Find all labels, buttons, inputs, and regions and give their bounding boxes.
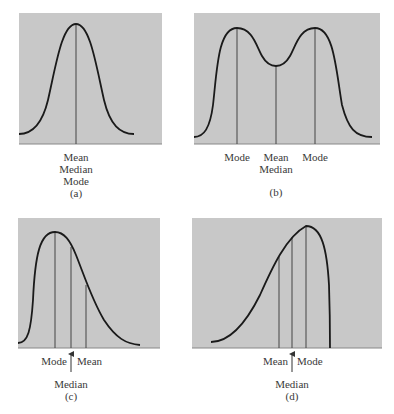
panel-b-caption: (b) bbox=[270, 186, 283, 198]
panel-a-label-mean: Mean bbox=[63, 151, 88, 163]
panel-c-label-mean: Mean bbox=[77, 355, 102, 367]
panel-d-label-median: Median bbox=[275, 378, 309, 390]
panel-b-label-right-mode: Mode bbox=[302, 151, 328, 163]
panel-d-label-mean: Mean bbox=[263, 355, 288, 367]
panel-a-caption: (a) bbox=[70, 187, 82, 199]
panel-a-background bbox=[19, 13, 162, 144]
panel-a bbox=[19, 13, 162, 144]
panel-b-background bbox=[194, 13, 380, 144]
panel-c-background bbox=[18, 218, 160, 348]
panel-c-label-median: Median bbox=[54, 378, 88, 390]
panel-a-label-median: Median bbox=[59, 163, 93, 175]
distribution-shapes-figure: Mean Median Mode (a) Mode Mean Median Mo… bbox=[0, 0, 394, 414]
panel-b-label-left-mode: Mode bbox=[224, 151, 250, 163]
figure-graphics bbox=[0, 0, 394, 414]
panel-b-label-median: Median bbox=[259, 163, 293, 175]
panel-d-background bbox=[192, 218, 382, 348]
panel-b-label-mean: Mean bbox=[263, 151, 288, 163]
panel-a-label-mode: Mode bbox=[63, 175, 89, 187]
panel-c bbox=[18, 218, 160, 372]
panel-c-caption: (c) bbox=[65, 390, 77, 402]
panel-c-label-mode: Mode bbox=[41, 355, 67, 367]
panel-b bbox=[194, 13, 380, 144]
panel-d-label-mode: Mode bbox=[297, 355, 323, 367]
panel-d bbox=[192, 218, 382, 372]
panel-d-caption: (d) bbox=[286, 390, 299, 402]
